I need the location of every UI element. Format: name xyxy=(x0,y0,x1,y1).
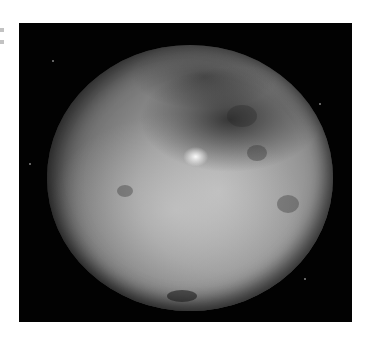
cut-off-text-fragment xyxy=(0,40,4,44)
crater xyxy=(247,145,267,161)
photo-frame xyxy=(19,23,352,322)
crater xyxy=(117,185,133,197)
dwarf-planet xyxy=(47,45,333,311)
crater xyxy=(227,105,257,127)
crater xyxy=(277,195,299,213)
crater xyxy=(167,290,197,302)
star xyxy=(52,60,54,62)
star xyxy=(304,278,306,280)
star xyxy=(29,163,31,165)
star xyxy=(319,103,321,105)
cut-off-text-fragment xyxy=(0,28,4,32)
